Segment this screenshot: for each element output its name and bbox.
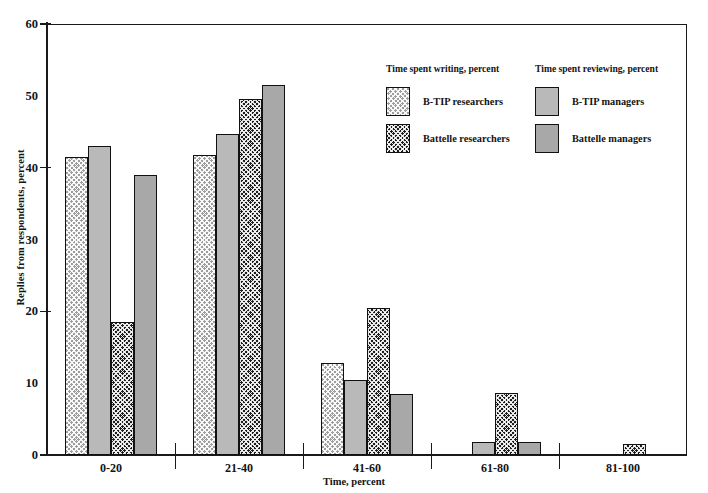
y-tick-mark [40,23,51,25]
bar-group [47,24,175,455]
y-tick-label: 0 [10,449,38,462]
x-axis-separator [559,443,560,469]
bar-battelle-researchers-21-40 [239,99,262,455]
bar-battelle-researchers-81-100 [623,444,646,455]
bar-battelle-researchers-0-20 [111,322,134,455]
x-axis-separator [175,443,176,469]
x-axis-separator [303,443,304,469]
legend-label: Battelle managers [572,133,651,144]
y-tick-mark [40,167,51,169]
legend-column: Time spent reviewing, percentB-TIP manag… [535,63,685,157]
x-tick-label: 21-40 [179,461,299,476]
y-tick-label: 50 [10,90,38,103]
x-tick-label: 61-80 [435,461,555,476]
legend-swatch-icon [386,87,410,116]
legend-item: Battelle managers [535,120,685,157]
legend-label: Battelle researchers [423,133,510,144]
y-tick-mark [40,454,51,456]
legend: Time spent writing, percentB-TIP researc… [386,63,686,168]
bar-battelle-researchers-41-60 [367,308,390,455]
bar-b-tip-managers-61-80 [472,442,495,455]
x-tick-label: 0-20 [51,461,171,476]
legend-label: B-TIP researchers [423,96,503,107]
x-axis-title: Time, percent [0,476,708,487]
y-tick-label: 60 [10,18,38,31]
legend-column: Time spent writing, percentB-TIP researc… [386,63,536,157]
bar-b-tip-researchers-0-20 [65,157,88,455]
bar-b-tip-researchers-41-60 [321,363,344,455]
bar-battelle-managers-61-80 [518,442,541,455]
legend-item: Battelle researchers [386,120,536,157]
bar-battelle-managers-41-60 [390,394,413,455]
y-tick-mark [40,311,51,313]
legend-swatch-icon [535,124,559,153]
bar-battelle-researchers-61-80 [495,393,518,455]
legend-item: B-TIP researchers [386,83,536,120]
legend-heading: Time spent writing, percent [386,63,536,74]
y-tick-label: 10 [10,377,38,390]
y-axis-title: Replies from respondents, percent [15,128,26,328]
x-tick-label: 41-60 [307,461,427,476]
bar-battelle-managers-21-40 [262,85,285,455]
bar-b-tip-researchers-21-40 [193,155,216,455]
figure: 0102030405060 Replies from respondents, … [0,0,708,493]
legend-swatch-icon [386,124,410,153]
x-axis-separator [431,443,432,469]
bar-b-tip-managers-21-40 [216,134,239,455]
bar-b-tip-managers-41-60 [344,380,367,455]
x-tick-label: 81-100 [563,461,683,476]
legend-item: B-TIP managers [535,83,685,120]
legend-label: B-TIP managers [572,96,644,107]
legend-swatch-icon [535,87,559,116]
legend-heading: Time spent reviewing, percent [535,63,685,74]
bar-group [175,24,303,455]
bar-battelle-managers-0-20 [134,175,157,455]
bar-b-tip-managers-0-20 [88,146,111,455]
